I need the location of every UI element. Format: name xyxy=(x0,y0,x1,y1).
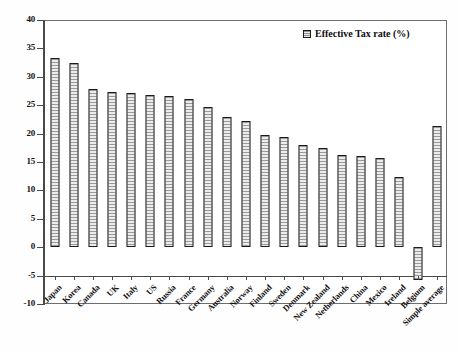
bar xyxy=(261,135,270,247)
bar xyxy=(69,63,78,248)
y-axis-label: -5 xyxy=(2,271,35,280)
bar xyxy=(395,177,404,247)
x-axis-tick xyxy=(131,276,132,280)
y-axis-label: 30 xyxy=(2,72,35,81)
bar xyxy=(222,117,231,248)
x-axis-tick xyxy=(112,276,113,280)
bar xyxy=(50,58,59,247)
bar xyxy=(376,158,385,247)
y-axis-label: 20 xyxy=(2,129,35,138)
bar xyxy=(299,145,308,247)
y-axis-tick xyxy=(37,20,45,21)
y-axis-tick xyxy=(37,276,45,277)
x-axis-tick xyxy=(303,276,304,280)
y-axis-label: 0 xyxy=(2,242,35,251)
hatched-square-icon xyxy=(303,30,311,38)
bar xyxy=(318,148,327,247)
bar xyxy=(356,156,365,247)
y-axis-tick xyxy=(37,48,45,49)
y-axis-tick xyxy=(37,134,45,135)
y-axis-tick xyxy=(37,304,45,305)
bar xyxy=(433,126,442,247)
x-axis-tick xyxy=(93,276,94,280)
x-axis-tick xyxy=(418,276,419,280)
x-axis-tick xyxy=(150,276,151,280)
x-axis-tick xyxy=(361,276,362,280)
x-axis-tick xyxy=(437,276,438,280)
bar xyxy=(280,137,289,247)
x-axis-tick xyxy=(265,276,266,280)
y-axis-tick xyxy=(37,105,45,106)
y-axis-label: 10 xyxy=(2,185,35,194)
x-axis-tick xyxy=(208,276,209,280)
x-axis-tick xyxy=(227,276,228,280)
y-axis-label: 25 xyxy=(2,100,35,109)
y-axis-label: 40 xyxy=(2,15,35,24)
y-axis-tick xyxy=(37,190,45,191)
y-axis-label: 35 xyxy=(2,43,35,52)
y-axis-label: 15 xyxy=(2,157,35,166)
y-axis-label: 5 xyxy=(2,214,35,223)
bar xyxy=(108,92,117,248)
bar xyxy=(337,155,346,247)
x-axis-tick xyxy=(189,276,190,280)
bar xyxy=(242,121,251,248)
bar xyxy=(88,89,97,247)
bar xyxy=(127,93,136,247)
y-axis-tick xyxy=(37,219,45,220)
effective-tax-rate-chart: 4035302520151050-5-10 JapanKoreaCanadaUK… xyxy=(0,0,459,351)
bar xyxy=(203,107,212,247)
x-axis-tick xyxy=(342,276,343,280)
x-axis-tick xyxy=(169,276,170,280)
y-axis-tick xyxy=(37,247,45,248)
x-axis-tick xyxy=(380,276,381,280)
x-axis-tick xyxy=(55,276,56,280)
y-axis-tick xyxy=(37,162,45,163)
x-axis-tick xyxy=(284,276,285,280)
bars-layer xyxy=(45,20,447,304)
y-axis-label: -10 xyxy=(2,299,35,308)
x-axis-tick xyxy=(246,276,247,280)
bar xyxy=(165,96,174,248)
y-axis-tick xyxy=(37,77,45,78)
x-axis-tick xyxy=(399,276,400,280)
bar xyxy=(146,95,155,247)
x-axis-tick xyxy=(74,276,75,280)
bar xyxy=(184,99,193,247)
legend: Effective Tax rate (%) xyxy=(303,28,410,39)
x-axis-tick xyxy=(323,276,324,280)
legend-label: Effective Tax rate (%) xyxy=(315,28,410,39)
